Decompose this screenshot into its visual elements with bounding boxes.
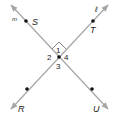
point-u-dot	[90, 87, 94, 91]
point-s-label: S	[32, 17, 38, 27]
line-l-label: ℓ	[94, 5, 98, 14]
point-r-label: R	[18, 104, 25, 114]
point-r-dot	[25, 87, 29, 91]
angle-1-label: 1	[56, 46, 61, 55]
point-t-dot	[91, 19, 95, 23]
point-t-label: T	[90, 25, 97, 35]
angle-4-label: 4	[64, 53, 69, 62]
angle-3-label: 3	[56, 62, 61, 71]
perpendicular-lines-diagram: m ℓ S T R U 1 2 3 4	[0, 0, 117, 120]
intersection-point	[57, 55, 61, 59]
point-u-label: U	[93, 104, 100, 114]
point-s-dot	[24, 19, 28, 23]
line-m-label: m	[12, 16, 17, 22]
angle-2-label: 2	[47, 53, 52, 62]
